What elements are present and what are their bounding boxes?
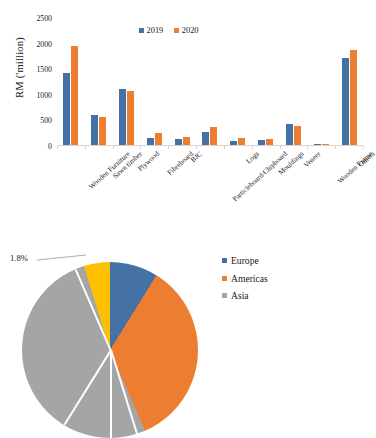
- bar-2020: [294, 126, 301, 145]
- legend-item-europe: Europe: [222, 255, 268, 266]
- bar-group: [168, 18, 196, 145]
- bar-chart-plot-area: 05001000150020002500: [57, 18, 363, 146]
- x-tick-mark: [196, 146, 197, 149]
- pie-label-8-7: 8.7%: [130, 252, 149, 262]
- y-tick-1000: 1000: [16, 90, 52, 99]
- x-tick-mark: [363, 146, 364, 149]
- x-tick-mark: [85, 146, 86, 149]
- x-tick-mark: [335, 146, 336, 149]
- legend-swatch-americas: [222, 276, 227, 281]
- legend-label-asia: Asia: [231, 290, 249, 301]
- bar-2020: [127, 91, 134, 145]
- y-tick-1500: 1500: [16, 65, 52, 74]
- legend-swatch-asia: [222, 293, 227, 298]
- bar-2019: [91, 115, 98, 145]
- x-tick-mark: [224, 146, 225, 149]
- y-tick-2500: 2500: [16, 14, 52, 23]
- bar-2020: [350, 50, 357, 145]
- bar-group: [307, 18, 335, 145]
- bar-2020: [210, 127, 217, 145]
- x-tick-mark: [280, 146, 281, 149]
- y-tick-2000: 2000: [16, 39, 52, 48]
- legend-item-americas: Americas: [222, 273, 268, 284]
- category-label: Fibreboard: [166, 150, 195, 177]
- x-tick-mark: [168, 146, 169, 149]
- legend-label-europe: Europe: [231, 255, 259, 266]
- legend-item-asia: Asia: [222, 290, 268, 301]
- bar-2020: [99, 117, 106, 145]
- bar-group: [224, 18, 252, 145]
- bar-2020: [155, 133, 162, 145]
- bar-group: [57, 18, 85, 145]
- bar-2019: [202, 132, 209, 145]
- bar-group: [280, 18, 308, 145]
- pie-label-4-7: 4.7%: [88, 254, 107, 264]
- bar-2019: [286, 124, 293, 146]
- bar-2020: [238, 138, 245, 145]
- bar-2020: [71, 46, 78, 145]
- bar-chart-x-axis: [57, 145, 363, 146]
- pie-chart-legend: Europe Americas Asia: [222, 255, 268, 301]
- bar-2019: [342, 58, 349, 145]
- bar-group: [252, 18, 280, 145]
- pie-label-1-8: 1.8%: [10, 253, 28, 263]
- category-label: Particleboard/Chipboard: [231, 150, 289, 203]
- legend-label-americas: Americas: [231, 273, 268, 284]
- bar-group: [196, 18, 224, 145]
- pie-chart: 1.8% 4.7% 8.7% Europe Americas Asia: [0, 222, 376, 307]
- x-tick-mark: [252, 146, 253, 149]
- x-tick-mark: [140, 146, 141, 149]
- category-label: Logs: [245, 150, 261, 166]
- category-label: Veneer: [302, 150, 322, 169]
- bar-group: [140, 18, 168, 145]
- bar-2019: [147, 138, 154, 145]
- bar-2019: [63, 73, 70, 145]
- legend-swatch-europe: [222, 258, 227, 263]
- pie-chart-graphic: [22, 262, 198, 438]
- bar-group: [335, 18, 363, 145]
- y-tick-500: 500: [16, 116, 52, 125]
- pie-slice-separator: [110, 350, 112, 438]
- bar-2020: [183, 137, 190, 145]
- bar-group: [85, 18, 113, 145]
- x-tick-mark: [307, 146, 308, 149]
- pie-leader-line: [0, 222, 200, 282]
- category-label: Others: [357, 150, 376, 169]
- y-tick-0: 0: [16, 142, 52, 151]
- x-tick-mark: [113, 146, 114, 149]
- bar-2019: [119, 89, 126, 145]
- bar-chart: RM ('million) 2019 2020 0500100015002000…: [0, 0, 376, 220]
- x-tick-mark: [57, 146, 58, 149]
- bar-group: [113, 18, 141, 145]
